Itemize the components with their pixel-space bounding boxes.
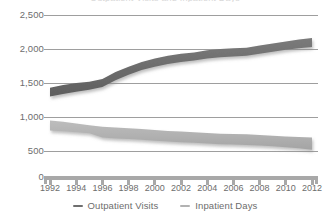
y-axis-label: 0 [2,171,44,182]
x-axis-label: 2012 [297,183,327,193]
series-bands [44,10,318,182]
chart-legend: Outpatient Visits Inpatient Days [0,200,330,211]
band-inpatient-days [50,120,312,149]
legend-item-inpatient-days[interactable]: Inpatient Days [180,200,257,211]
legend-label: Inpatient Days [195,200,257,211]
chart-container: Outpatient Visits and Inpatient Days [0,0,330,224]
x-axis [44,176,318,180]
legend-label: Outpatient Visits [88,200,159,211]
y-axis-label: 500 [2,145,44,156]
y-axis-label: 2,000 [2,43,44,54]
band-outpatient-visits [50,38,312,96]
legend-item-outpatient-visits[interactable]: Outpatient Visits [73,200,159,211]
y-axis-label: 1,500 [2,77,44,88]
y-axis-label: 2,500 [2,9,44,20]
y-axis-label: 1,000 [2,111,44,122]
chart-title-clipped: Outpatient Visits and Inpatient Days [0,0,330,2]
dash-icon [180,205,190,207]
plot-area [44,10,318,182]
dash-icon [73,205,83,207]
